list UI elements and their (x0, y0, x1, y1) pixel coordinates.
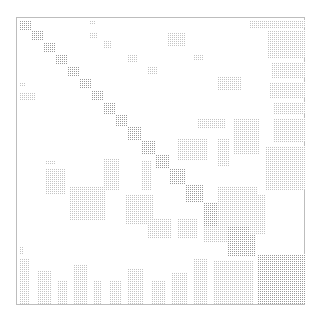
nonzero-block (79, 78, 91, 88)
nonzero-block (141, 140, 155, 154)
nonzero-block (185, 184, 203, 202)
nonzero-block (45, 168, 65, 194)
nonzero-block (45, 160, 55, 164)
nonzero-block (89, 32, 97, 38)
nonzero-block (217, 138, 229, 166)
nonzero-block (103, 40, 111, 48)
nonzero-block (69, 186, 105, 220)
nonzero-block (91, 90, 103, 100)
nonzero-block (197, 118, 225, 128)
nonzero-block (19, 20, 31, 30)
nonzero-block (265, 146, 305, 190)
nonzero-block (249, 194, 265, 234)
nonzero-block (93, 280, 101, 304)
nonzero-block (267, 30, 305, 58)
nonzero-block (257, 254, 305, 304)
nonzero-block (177, 218, 197, 238)
nonzero-block (167, 32, 185, 46)
nonzero-block (193, 258, 207, 304)
nonzero-block (151, 280, 165, 304)
nonzero-block (273, 102, 305, 114)
nonzero-block (233, 118, 259, 154)
nonzero-block (141, 160, 151, 190)
nonzero-block (67, 66, 79, 76)
nonzero-block (249, 20, 305, 28)
nonzero-block (19, 92, 35, 100)
nonzero-block (213, 260, 253, 304)
nonzero-block (171, 272, 187, 304)
nonzero-block (57, 280, 67, 304)
nonzero-block (31, 30, 43, 40)
nonzero-block (177, 138, 207, 160)
nonzero-block (109, 280, 121, 304)
nonzero-block (103, 158, 119, 190)
nonzero-block (147, 66, 157, 74)
nonzero-block (43, 42, 55, 52)
spy-plot-frame (16, 17, 305, 305)
nonzero-block (217, 76, 241, 90)
nonzero-block (73, 264, 87, 304)
nonzero-block (271, 62, 305, 78)
nonzero-block (147, 218, 171, 238)
nonzero-block (203, 226, 227, 242)
nonzero-block (19, 82, 25, 86)
nonzero-block (37, 270, 51, 304)
nonzero-block (193, 54, 203, 60)
nonzero-block (127, 268, 143, 304)
nonzero-block (89, 20, 95, 24)
nonzero-block (155, 154, 169, 168)
nonzero-block (103, 102, 115, 114)
nonzero-block (127, 54, 137, 62)
nonzero-block (269, 82, 305, 98)
nonzero-block (19, 258, 29, 304)
nonzero-block (273, 118, 305, 142)
nonzero-block (127, 126, 141, 140)
nonzero-block (55, 54, 67, 64)
nonzero-block (169, 168, 185, 184)
nonzero-block (19, 246, 23, 254)
nonzero-block (115, 114, 127, 126)
